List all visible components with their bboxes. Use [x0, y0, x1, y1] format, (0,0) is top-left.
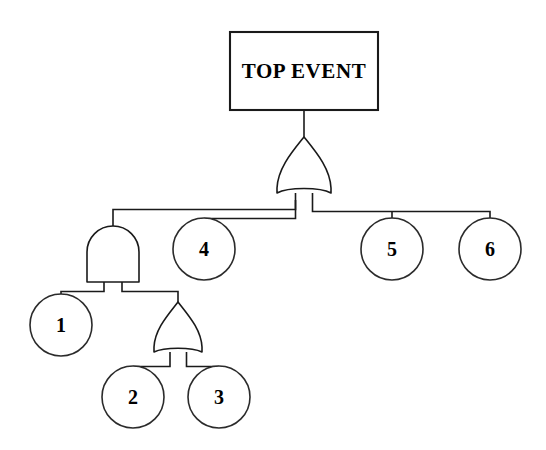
- basic-event-5[interactable]: 5: [361, 218, 423, 280]
- fault-tree-diagram: TOP EVENT 1 2 3 4 5 6: [0, 0, 546, 450]
- top-or-gate[interactable]: [277, 137, 331, 193]
- event-label: 6: [485, 238, 495, 260]
- and-gate[interactable]: [87, 226, 139, 282]
- top-event-label: TOP EVENT: [242, 59, 367, 83]
- and-gate-shape: [87, 226, 139, 282]
- event-label: 5: [387, 238, 397, 260]
- basic-event-6[interactable]: 6: [459, 218, 521, 280]
- event-label: 3: [214, 386, 224, 408]
- connector-lower-orgate-to-event-2: [133, 352, 170, 367]
- or-gate-shape: [277, 137, 331, 193]
- connector-lower-orgate-to-event-3: [187, 352, 220, 367]
- connector-andgate-to-lower-orgate: [122, 282, 178, 302]
- connector-andgate-to-event-1: [61, 282, 104, 294]
- basic-event-3[interactable]: 3: [188, 366, 250, 428]
- event-label: 2: [128, 386, 138, 408]
- lower-or-gate[interactable]: [154, 302, 202, 352]
- basic-event-1[interactable]: 1: [30, 294, 92, 356]
- basic-event-4[interactable]: 4: [173, 218, 235, 280]
- event-label: 4: [199, 238, 209, 260]
- connector-orgate-right-bus: [313, 193, 491, 218]
- event-label: 1: [56, 314, 66, 336]
- lower-or-gate-shape: [154, 302, 202, 352]
- basic-event-2[interactable]: 2: [102, 366, 164, 428]
- top-event-node[interactable]: TOP EVENT: [230, 32, 378, 110]
